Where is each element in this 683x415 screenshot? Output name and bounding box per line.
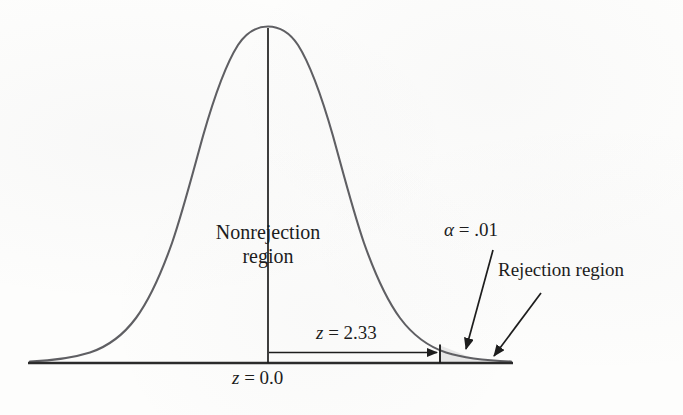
- nonrejection-region-label-line1: Nonrejection: [216, 221, 320, 243]
- normal-distribution-chart: [0, 0, 683, 415]
- normal-curve: [30, 27, 511, 362]
- alpha-symbol: α: [444, 219, 454, 240]
- alpha-value: = .01: [454, 219, 498, 240]
- z-mean-label: z = 0.0: [232, 367, 283, 389]
- alpha-significance-label: α = .01: [444, 219, 498, 241]
- z-mean-value: = 0.0: [239, 367, 283, 388]
- rejection-leader-arrow: [494, 293, 541, 356]
- rejection-region-label: Rejection region: [498, 259, 624, 281]
- nonrejection-region-label-line2: region: [242, 245, 293, 267]
- z-critical-label: z = 2.33: [316, 322, 377, 344]
- alpha-leader-arrow: [466, 250, 493, 349]
- nonrejection-region-label: Nonrejection region: [162, 221, 374, 268]
- z-critical-value: = 2.33: [323, 322, 376, 343]
